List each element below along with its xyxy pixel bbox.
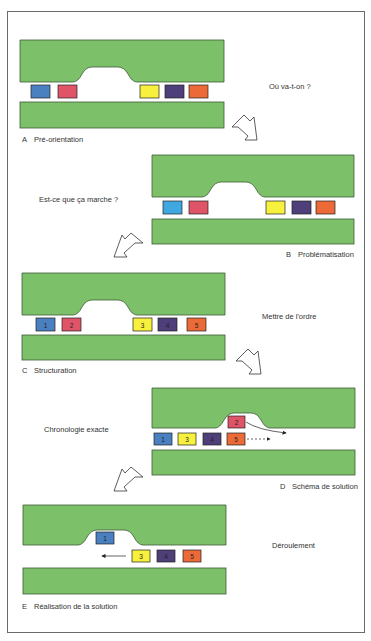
stage-b-caption: BProblématisation — [286, 250, 354, 259]
stage-c-caption: CStructuration — [22, 366, 77, 375]
stage-b-question: Est-ce que ça marche ? — [39, 195, 118, 204]
svg-text:1: 1 — [44, 322, 48, 329]
svg-text:5: 5 — [234, 436, 238, 443]
svg-text:5: 5 — [195, 322, 199, 329]
stage-d-road — [152, 388, 355, 475]
stage-b-road — [152, 155, 354, 244]
arrow-b-to-c-icon — [114, 233, 143, 257]
svg-text:1: 1 — [103, 535, 107, 542]
stage-c-blocks — [36, 318, 206, 331]
svg-text:5: 5 — [190, 553, 194, 560]
svg-text:3: 3 — [139, 553, 143, 560]
stage-a-blocks — [31, 85, 208, 98]
svg-text:4: 4 — [210, 436, 214, 443]
stage-a-caption: APré-orientation — [22, 135, 83, 144]
svg-text:3: 3 — [185, 436, 189, 443]
stage-b-blocks — [163, 201, 335, 214]
stage-c-question: Mettre de l'ordre — [262, 312, 316, 321]
stage-c-road — [22, 273, 225, 360]
arrow-c-to-d-icon — [236, 349, 261, 374]
svg-text:4: 4 — [164, 553, 168, 560]
svg-text:1: 1 — [161, 436, 165, 443]
stage-d-question: Chronologie exacte — [44, 425, 109, 434]
arrow-a-to-b-icon — [232, 115, 257, 140]
stage-d-caption: DSchéma de solution — [280, 482, 358, 491]
stage-a-question: Où va-t-on ? — [269, 82, 311, 91]
arrow-d-to-e-icon — [114, 467, 143, 491]
stage-e-road — [23, 505, 226, 594]
svg-text:3: 3 — [141, 322, 145, 329]
stage-a-road — [20, 40, 224, 128]
svg-text:2: 2 — [70, 322, 74, 329]
svg-text:4: 4 — [166, 322, 170, 329]
svg-text:2: 2 — [235, 419, 239, 426]
stage-e-question: Déroulement — [272, 541, 315, 550]
stage-e-caption: ERéalisation de la solution — [22, 602, 117, 611]
